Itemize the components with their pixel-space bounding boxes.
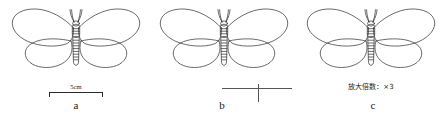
scale-bar-tick-left (49, 92, 50, 97)
scale-bar: 5cm (49, 83, 103, 98)
figure-root: 5cm a (0, 0, 445, 121)
magnification-label: 放大倍数：×3 (348, 82, 393, 92)
figure-panel-c: 放大倍数：×3 c (297, 0, 445, 121)
moth-illustration-a (8, 3, 144, 77)
panel-letter-b: b (148, 99, 296, 112)
panel-letter-a: a (2, 99, 150, 112)
panel-a-annotation: 5cm (2, 79, 150, 101)
scale-bar-label: 5cm (49, 83, 103, 91)
scale-bar-line (49, 92, 103, 93)
moth-illustration-c (303, 3, 439, 77)
panel-letter-c: c (299, 99, 445, 112)
scale-bar-rule (49, 92, 103, 98)
figure-panel-b: b (150, 0, 298, 121)
panel-c-annotation: 放大倍数：×3 (297, 79, 445, 101)
panel-b-annotation (150, 79, 298, 101)
moth-illustration-b (156, 3, 292, 77)
cross-rule-horizontal-line (222, 88, 292, 89)
figure-panel-a: 5cm a (2, 0, 150, 121)
scale-bar-tick-right (102, 92, 103, 97)
